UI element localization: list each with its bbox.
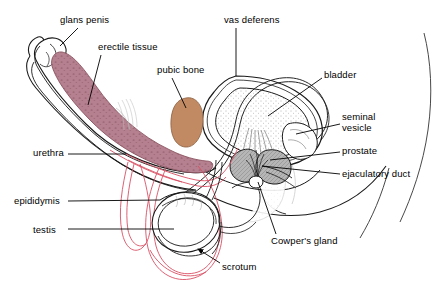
- label-bladder: bladder: [324, 69, 356, 80]
- label-prostate: prostate: [342, 145, 377, 156]
- label-seminal-vesicle: seminal vesicle: [342, 111, 375, 133]
- label-glans-penis: glans penis: [60, 14, 109, 25]
- diagram-canvas: [0, 0, 446, 303]
- pubic-bone-body: [171, 98, 203, 147]
- label-scrotum: scrotum: [222, 261, 256, 272]
- label-epididymis: epididymis: [14, 195, 60, 206]
- label-ejaculatory-duct: ejaculatory duct: [342, 168, 410, 179]
- label-erectile-tissue: erectile tissue: [98, 41, 158, 52]
- leader-epididymis: [68, 200, 160, 201]
- label-vas-deferens: vas deferens: [224, 14, 280, 25]
- label-pubic-bone: pubic bone: [157, 64, 204, 75]
- anatomical-diagram: glans penis erectile tissue pubic bone v…: [0, 0, 446, 303]
- label-cowpers-gland: Cowper's gland: [271, 235, 338, 246]
- label-urethra: urethra: [33, 147, 64, 158]
- label-testis: testis: [33, 224, 56, 235]
- leader-glans-penis: [60, 28, 78, 46]
- body-contour: [360, 33, 431, 238]
